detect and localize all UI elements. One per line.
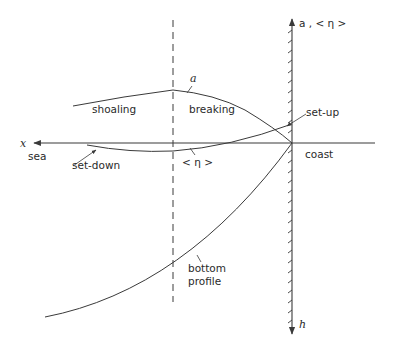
vertical-axis-top-label: a , < η >: [299, 17, 346, 29]
mean-level-curve: [87, 124, 292, 151]
eta-curve-label: < η >: [182, 156, 213, 168]
coast-hatching: [288, 30, 292, 323]
vertical-axis-bottom-label: h: [299, 318, 306, 331]
set-up-label: set-up: [306, 106, 339, 118]
set-down-label: set-down: [72, 159, 120, 171]
coast-vertical-axis: [288, 19, 292, 334]
breaking-label: breaking: [189, 103, 235, 115]
a-curve-label: a: [190, 72, 197, 85]
x-axis-label: x: [20, 137, 27, 150]
set-up-arrow: [287, 114, 306, 126]
sea-label: sea: [28, 150, 46, 162]
bottom-profile-label-line1: bottom: [188, 262, 226, 274]
bottom-leader-line: [197, 255, 201, 262]
bottom-profile-label-line2: profile: [188, 275, 221, 287]
coast-label: coast: [305, 148, 333, 160]
wave-setup-diagram: x sea set-down shoaling breaking a < η >…: [0, 0, 396, 347]
shoaling-label: shoaling: [92, 103, 136, 115]
